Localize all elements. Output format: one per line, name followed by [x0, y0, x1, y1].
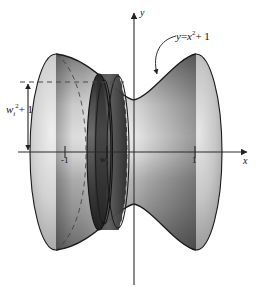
shell-position-subscript: i	[106, 160, 108, 166]
shell-height-tail: + 1	[19, 103, 33, 115]
curve-eq-tail: + 1	[195, 30, 209, 42]
curve-equation-label: y=x2+ 1	[176, 30, 210, 42]
y-axis-label: y	[140, 8, 144, 18]
shell-height-label: wi2+ 1	[6, 103, 33, 118]
figure-canvas	[0, 0, 260, 291]
x-tick-label-pos1: 1	[192, 156, 197, 165]
x-axis-label: x	[243, 156, 247, 166]
x-tick-label-neg1: -1	[61, 156, 69, 165]
shell-height-subscript: i	[13, 110, 15, 117]
shell-position-label: wi	[100, 155, 108, 166]
solid-of-revolution-figure: y=x2+ 1 wi2+ 1 wi -1 1 x y	[0, 0, 260, 291]
